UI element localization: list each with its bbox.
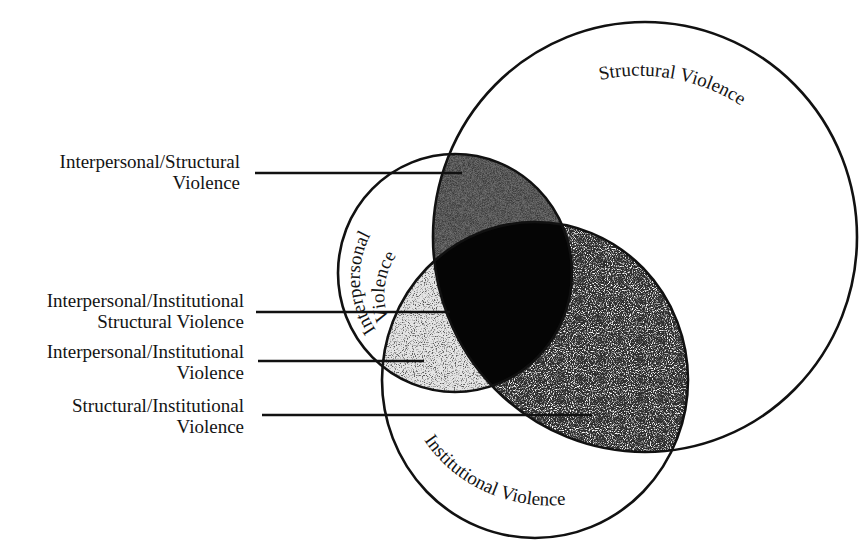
- callout-line1: Structural/Institutional: [72, 395, 244, 416]
- callout-line1: Interpersonal/Structural: [60, 151, 240, 172]
- callout-all-three: Interpersonal/Institutional Structural V…: [47, 290, 244, 332]
- callout-line2: Violence: [72, 416, 244, 437]
- callout-interpersonal-structural: Interpersonal/Structural Violence: [60, 151, 240, 193]
- callout-line2: Structural Violence: [47, 311, 244, 332]
- venn-diagram: Structural Violence Interpersonal Violen…: [0, 0, 865, 548]
- callout-line2: Violence: [47, 362, 244, 383]
- callout-line1: Interpersonal/Institutional: [47, 290, 244, 311]
- callout-line1: Interpersonal/Institutional: [47, 341, 244, 362]
- callout-interpersonal-institutional: Interpersonal/Institutional Violence: [47, 341, 244, 383]
- callout-structural-institutional: Structural/Institutional Violence: [72, 395, 244, 437]
- callout-line2: Violence: [60, 172, 240, 193]
